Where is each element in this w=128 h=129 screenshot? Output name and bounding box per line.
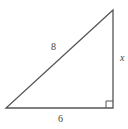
- vertical-leg-label: x: [119, 52, 125, 63]
- right-angle-marker: [106, 101, 113, 108]
- right-triangle: [6, 10, 113, 108]
- hypotenuse-label: 8: [51, 41, 56, 52]
- triangle-diagram: 8 x 6: [0, 0, 128, 129]
- base-label: 6: [58, 113, 63, 124]
